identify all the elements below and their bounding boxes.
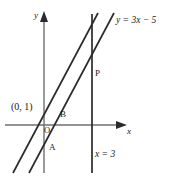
graph-canvas [0,0,169,176]
y-intercept-label: (0, 1) [11,102,33,112]
line-equation-label: y = 3x − 5 [116,16,156,26]
point-b-label: B [60,110,66,119]
y-axis-arrowhead [40,11,48,22]
x-axis-arrowhead [116,121,127,129]
vertical-line-label: x = 3 [95,150,115,160]
point-p-label: P [95,69,100,78]
x-axis-label: x [127,127,131,136]
point-a-label: A [49,143,56,152]
x-axis [5,121,127,129]
y-axis-label: y [34,11,38,20]
coordinate-geometry-figure: y x O (0, 1) y = 3x − 5 x = 3 A B P [0,0,169,176]
origin-label: O [44,126,50,135]
